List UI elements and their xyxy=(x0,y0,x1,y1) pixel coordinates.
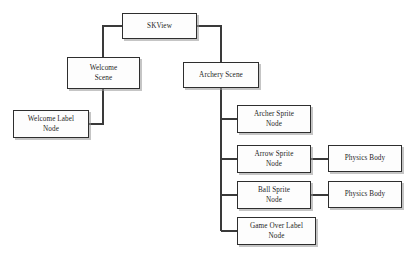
node-game-over-label-node: Game Over Label Node xyxy=(237,217,316,245)
node-archer-sprite-node-label: Archer Sprite Node xyxy=(254,109,294,130)
node-physics-body-ball: Physics Body xyxy=(328,181,402,208)
edge-skview-archery-scene xyxy=(197,26,221,62)
node-ball-sprite-node: Ball Sprite Node xyxy=(237,181,311,209)
node-skview: SKView xyxy=(122,13,197,39)
node-welcome-label-node-label: Welcome Label Node xyxy=(28,114,74,135)
node-ball-sprite-node-label: Ball Sprite Node xyxy=(258,185,290,206)
node-welcome-scene: Welcome Scene xyxy=(67,57,140,89)
node-skview-label: SKView xyxy=(147,21,172,31)
node-welcome-scene-label: Welcome Scene xyxy=(90,63,118,84)
node-game-over-label-node-label: Game Over Label Node xyxy=(250,221,303,242)
node-arrow-sprite-node: Arrow Sprite Node xyxy=(237,145,311,173)
node-archery-scene: Archery Scene xyxy=(183,62,259,88)
node-arrow-sprite-node-label: Arrow Sprite Node xyxy=(255,149,294,170)
node-physics-body-arrow-label: Physics Body xyxy=(345,153,386,163)
node-welcome-label-node: Welcome Label Node xyxy=(13,110,89,138)
node-physics-body-ball-label: Physics Body xyxy=(345,189,386,199)
edge-welcome-scene-welcome-label xyxy=(89,89,103,124)
diagram-canvas: SKView Welcome Scene Archery Scene Welco… xyxy=(0,0,416,260)
edge-skview-welcome-scene xyxy=(103,26,122,57)
node-archery-scene-label: Archery Scene xyxy=(199,70,243,80)
node-archer-sprite-node: Archer Sprite Node xyxy=(237,105,311,133)
node-physics-body-arrow: Physics Body xyxy=(328,145,402,172)
